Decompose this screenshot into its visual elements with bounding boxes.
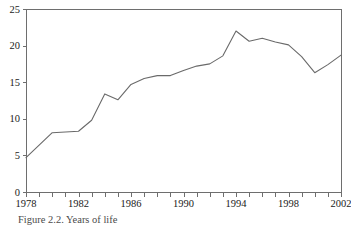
x-axis-ticks [27,193,342,197]
y-tick-label: 10 [10,113,21,124]
chart-canvas: 1978198219861990199419982002 0510152025 [0,0,351,225]
x-tick-label: 1998 [278,198,299,209]
figure-caption: Figure 2.2. Years of life [18,214,348,225]
data-series-group [26,31,341,158]
chart-axes [27,10,342,193]
x-tick-label: 1990 [173,198,194,209]
y-tick-label: 25 [10,4,21,15]
x-tick-label: 1978 [16,198,37,209]
series-line-1 [26,31,341,158]
x-tick-label: 1994 [226,198,248,209]
x-tick-label: 2002 [331,198,351,209]
y-tick-label: 20 [10,40,21,51]
x-tick-label: 1982 [68,198,89,209]
y-axis-ticks [23,10,27,193]
y-tick-label: 5 [15,150,20,161]
y-tick-label: 0 [15,187,20,198]
screenshot-root: 1978198219861990199419982002 0510152025 … [0,0,351,225]
x-axis-tick-labels: 1978198219861990199419982002 [16,198,351,209]
line-chart-figure: 1978198219861990199419982002 0510152025 [0,0,351,225]
x-tick-label: 1986 [121,198,142,209]
y-axis-tick-labels: 0510152025 [10,4,21,198]
y-tick-label: 15 [10,77,21,88]
